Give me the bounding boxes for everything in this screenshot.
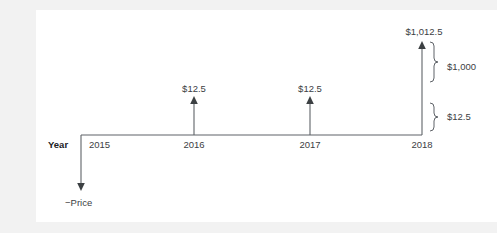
price-arrow-head-icon	[77, 183, 85, 191]
year-label-2017: 2017	[299, 139, 320, 150]
timeline-diagram: Year −Price 2015 2016 2017 2018 $12.5 $1…	[0, 0, 497, 233]
brace-coupon-icon	[430, 103, 438, 131]
year-label-2016: 2016	[183, 139, 204, 150]
cashflow-arrow-head-2018-icon	[418, 41, 426, 49]
figure-root: Year −Price 2015 2016 2017 2018 $12.5 $1…	[0, 0, 497, 233]
cashflow-label-2017: $12.5	[298, 83, 322, 94]
x-axis-label: Year	[48, 139, 68, 150]
year-label-2015: 2015	[89, 139, 110, 150]
bracket-label-principal: $1,000	[447, 61, 476, 72]
year-label-2018: 2018	[411, 139, 432, 150]
cashflow-arrow-head-2016-icon	[190, 96, 198, 104]
y-axis-label: −Price	[65, 197, 92, 208]
bracket-label-coupon: $12.5	[447, 111, 471, 122]
brace-principal-icon	[430, 42, 438, 82]
cashflow-label-2018: $1,012.5	[406, 26, 443, 37]
cashflow-arrow-head-2017-icon	[306, 96, 314, 104]
cashflow-label-2016: $12.5	[182, 83, 206, 94]
